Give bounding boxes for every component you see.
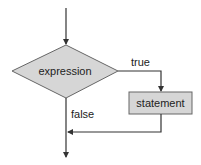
true-label: true	[131, 56, 150, 68]
false-label: false	[71, 108, 94, 120]
decision-label: expression	[38, 65, 91, 77]
statement-label: statement	[136, 97, 184, 109]
flowchart: expression true statement false	[0, 0, 201, 165]
true-branch-line	[118, 71, 161, 91]
